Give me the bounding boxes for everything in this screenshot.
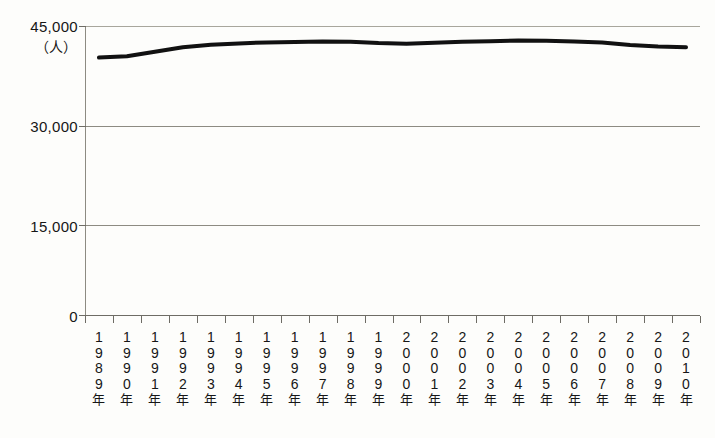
y-axis-unit-label: （人） bbox=[0, 40, 77, 54]
x-axis-category-label: 1994年 bbox=[226, 330, 252, 408]
x-tick-mark bbox=[169, 316, 170, 323]
x-tick-mark bbox=[448, 316, 449, 323]
x-axis-category-label: 2008年 bbox=[617, 330, 643, 408]
x-axis-category-label: 2001年 bbox=[421, 330, 447, 408]
x-axis-category-label: 1997年 bbox=[310, 330, 336, 408]
x-axis-category-label: 2002年 bbox=[449, 330, 475, 408]
x-tick-mark bbox=[281, 316, 282, 323]
x-axis-category-label: 2000年 bbox=[393, 330, 419, 408]
x-tick-mark bbox=[420, 316, 421, 323]
x-tick-mark bbox=[365, 316, 366, 323]
x-axis-category-label: 2006年 bbox=[561, 330, 587, 408]
x-axis-category-label: 1998年 bbox=[338, 330, 364, 408]
x-axis-category-label: 1999年 bbox=[366, 330, 392, 408]
x-axis-category-label: 1993年 bbox=[198, 330, 224, 408]
plot-area bbox=[85, 26, 700, 316]
x-tick-mark bbox=[476, 316, 477, 323]
x-axis-category-label: 2005年 bbox=[533, 330, 559, 408]
x-axis-category-label: 1991年 bbox=[142, 330, 168, 408]
x-tick-mark bbox=[337, 316, 338, 323]
x-tick-mark bbox=[141, 316, 142, 323]
x-tick-mark bbox=[309, 316, 310, 323]
x-tick-mark bbox=[197, 316, 198, 323]
x-tick-mark bbox=[700, 316, 701, 323]
y-tick-label-0: 0 bbox=[0, 309, 78, 324]
x-tick-mark bbox=[504, 316, 505, 323]
x-axis-category-label: 1989年 bbox=[86, 330, 112, 408]
x-tick-mark bbox=[560, 316, 561, 323]
x-axis-category-label: 2003年 bbox=[477, 330, 503, 408]
x-axis-category-label: 2004年 bbox=[505, 330, 531, 408]
x-tick-mark bbox=[225, 316, 226, 323]
data-series-line bbox=[85, 26, 700, 316]
y-tick-label-30000: 30,000 bbox=[0, 119, 78, 134]
x-tick-mark bbox=[532, 316, 533, 323]
x-axis-category-label: 2010年 bbox=[673, 330, 699, 408]
series-polyline bbox=[99, 41, 686, 58]
x-axis-category-label: 2007年 bbox=[589, 330, 615, 408]
y-axis-labels: 45,000 （人） 30,000 15,000 0 bbox=[0, 0, 78, 438]
x-tick-mark bbox=[588, 316, 589, 323]
x-tick-mark bbox=[644, 316, 645, 323]
x-tick-mark bbox=[393, 316, 394, 323]
x-tick-mark bbox=[113, 316, 114, 323]
y-tick-label-15000: 15,000 bbox=[0, 219, 78, 234]
x-axis-labels: 1989年1990年1991年1992年1993年1994年1995年1996年… bbox=[85, 330, 700, 435]
x-axis-category-label: 1995年 bbox=[254, 330, 280, 408]
chart-container: 45,000 （人） 30,000 15,000 0 1989年1990年199… bbox=[0, 0, 715, 438]
x-axis-category-label: 1996年 bbox=[282, 330, 308, 408]
x-tick-mark bbox=[85, 316, 86, 323]
x-axis-category-label: 1990年 bbox=[114, 330, 140, 408]
x-axis-category-label: 1992年 bbox=[170, 330, 196, 408]
x-axis-category-label: 2009年 bbox=[645, 330, 671, 408]
y-tick-label-45000: 45,000 bbox=[0, 19, 78, 34]
x-tick-mark bbox=[616, 316, 617, 323]
x-tick-mark bbox=[672, 316, 673, 323]
x-tick-mark bbox=[253, 316, 254, 323]
